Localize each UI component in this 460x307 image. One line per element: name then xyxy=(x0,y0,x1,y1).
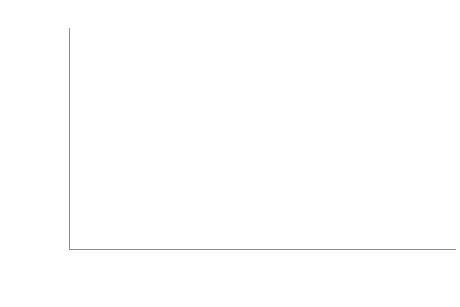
clipped-header-text xyxy=(96,0,276,3)
plot-area xyxy=(69,28,455,249)
chart-figure xyxy=(0,0,460,307)
x-axis-line xyxy=(69,249,456,250)
